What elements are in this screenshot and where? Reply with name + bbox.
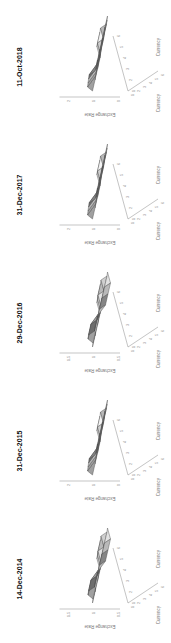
svg-text:5: 5 (155, 590, 159, 592)
svg-text:4: 4 (123, 185, 127, 187)
surface-plot: 1234561234560.511.5CurrencyCurrencyExcha… (0, 259, 171, 387)
svg-text:2: 2 (137, 90, 141, 92)
svg-text:0.5: 0.5 (117, 612, 121, 617)
svg-text:1: 1 (131, 222, 135, 224)
svg-text:1: 1 (131, 606, 135, 608)
svg-text:1: 1 (132, 90, 136, 92)
svg-text:4: 4 (149, 338, 153, 340)
svg-text:2: 2 (67, 100, 71, 102)
svg-text:Exchange Rate: Exchange Rate (84, 368, 115, 373)
svg-text:Currency: Currency (156, 221, 161, 240)
svg-text:3: 3 (143, 470, 147, 472)
svg-text:5: 5 (155, 462, 159, 464)
svg-text:Exchange Rate: Exchange Rate (84, 624, 115, 629)
svg-text:6: 6 (117, 35, 121, 37)
svg-text:0.5: 0.5 (117, 356, 121, 361)
surface-plot-panel: 11-Oct-2018123456123456012CurrencyCurren… (0, 3, 171, 131)
svg-text:Currency: Currency (156, 349, 161, 368)
svg-text:6: 6 (161, 586, 165, 588)
figure-rotated: 14-Dec-20141234561234560.511.5CurrencyCu… (0, 0, 171, 643)
svg-text:6: 6 (117, 419, 121, 421)
svg-text:2: 2 (67, 228, 71, 230)
svg-text:2: 2 (129, 207, 133, 209)
svg-text:0: 0 (117, 228, 121, 230)
surface-plot-panel: 31-Dec-2017123456123456012CurrencyCurren… (0, 131, 171, 259)
svg-text:Currency: Currency (156, 421, 161, 440)
surface-plot: 123456123456012CurrencyCurrencyExchange … (0, 131, 171, 259)
surface-plot-panel: 29-Dec-20161234561234560.511.5CurrencyCu… (0, 259, 171, 387)
surface-plot-panel: 14-Dec-20141234561234560.511.5CurrencyCu… (0, 515, 171, 643)
svg-text:1: 1 (92, 100, 96, 102)
svg-text:2: 2 (137, 474, 141, 476)
svg-text:1.5: 1.5 (67, 612, 71, 617)
svg-text:3: 3 (143, 598, 147, 600)
svg-text:5: 5 (155, 78, 159, 80)
svg-text:Currency: Currency (156, 37, 161, 56)
svg-text:6: 6 (161, 74, 165, 76)
svg-text:Currency: Currency (156, 549, 161, 568)
svg-text:Exchange Rate: Exchange Rate (84, 112, 115, 117)
svg-text:1: 1 (132, 218, 136, 220)
svg-text:2: 2 (137, 218, 141, 220)
svg-text:5: 5 (120, 174, 124, 176)
svg-text:0: 0 (117, 100, 121, 102)
svg-text:6: 6 (161, 458, 165, 460)
svg-text:1: 1 (132, 474, 136, 476)
surface-plot-panel: 31-Dec-2015123456123456012CurrencyCurren… (0, 387, 171, 515)
svg-text:Currency: Currency (156, 477, 161, 496)
svg-text:4: 4 (149, 210, 153, 212)
svg-text:2: 2 (129, 463, 133, 465)
svg-text:6: 6 (117, 163, 121, 165)
svg-text:4: 4 (123, 441, 127, 443)
surface-plot: 123456123456012CurrencyCurrencyExchange … (0, 3, 171, 131)
svg-text:1: 1 (92, 484, 96, 486)
svg-text:1: 1 (132, 602, 136, 604)
svg-text:4: 4 (149, 594, 153, 596)
svg-text:2: 2 (129, 79, 133, 81)
svg-text:3: 3 (143, 86, 147, 88)
svg-text:6: 6 (161, 202, 165, 204)
svg-text:3: 3 (126, 452, 130, 454)
svg-text:4: 4 (149, 466, 153, 468)
svg-text:Exchange Rate: Exchange Rate (84, 496, 115, 501)
svg-text:5: 5 (120, 430, 124, 432)
surface-plot: 123456123456012CurrencyCurrencyExchange … (0, 387, 171, 515)
svg-text:6: 6 (117, 547, 121, 549)
svg-text:4: 4 (123, 313, 127, 315)
svg-text:1: 1 (92, 228, 96, 230)
svg-text:0: 0 (117, 484, 121, 486)
svg-text:6: 6 (117, 291, 121, 293)
svg-text:2: 2 (129, 591, 133, 593)
svg-text:1: 1 (92, 612, 96, 614)
svg-text:2: 2 (137, 346, 141, 348)
surface-plot: 1234561234560.511.5CurrencyCurrencyExcha… (0, 515, 171, 643)
svg-text:Currency: Currency (156, 293, 161, 312)
svg-text:3: 3 (143, 214, 147, 216)
svg-text:2: 2 (129, 335, 133, 337)
svg-text:Currency: Currency (156, 605, 161, 624)
svg-text:4: 4 (123, 57, 127, 59)
svg-text:5: 5 (155, 334, 159, 336)
svg-text:2: 2 (137, 602, 141, 604)
svg-text:1: 1 (131, 478, 135, 480)
svg-text:5: 5 (155, 206, 159, 208)
svg-text:Exchange Rate: Exchange Rate (84, 240, 115, 245)
svg-text:3: 3 (143, 342, 147, 344)
svg-text:5: 5 (120, 46, 124, 48)
svg-text:3: 3 (126, 580, 130, 582)
svg-text:1: 1 (131, 94, 135, 96)
svg-text:3: 3 (126, 196, 130, 198)
svg-text:3: 3 (126, 324, 130, 326)
svg-text:1: 1 (92, 356, 96, 358)
svg-text:Currency: Currency (156, 93, 161, 112)
svg-text:1.5: 1.5 (67, 356, 71, 361)
svg-text:5: 5 (120, 302, 124, 304)
svg-text:4: 4 (149, 82, 153, 84)
svg-text:1: 1 (132, 346, 136, 348)
svg-text:5: 5 (120, 558, 124, 560)
svg-text:2: 2 (67, 484, 71, 486)
svg-text:4: 4 (123, 569, 127, 571)
svg-text:1: 1 (131, 350, 135, 352)
svg-text:3: 3 (126, 68, 130, 70)
svg-text:6: 6 (161, 330, 165, 332)
